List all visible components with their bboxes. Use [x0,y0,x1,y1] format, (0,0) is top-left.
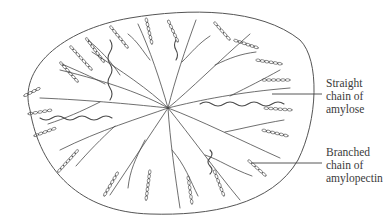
helical-bead-chain [262,79,290,82]
amylopectin-branch [172,150,198,196]
amylopectin-branch [215,52,256,65]
helical-bead-chain [57,149,79,173]
helical-bead-chain [69,45,93,71]
leader-lines [252,94,322,163]
amylopectin-branch [205,155,252,176]
helical-bead-chain [28,109,52,116]
amylopectin-branch [182,36,210,62]
helical-bead-chain [262,129,289,138]
amylopectin-branch [168,108,240,200]
amylopectin-branch [60,108,168,150]
amylopectin-branch [76,126,115,166]
amylopectin-branch [60,70,168,108]
amylopectin-branch [225,120,284,132]
label-line: amylose [326,103,364,116]
label-straight-chain-amylose: Straight chain of amylose [326,77,364,116]
amylopectin-branch [48,102,100,124]
granule-outline [28,12,314,214]
label-line: chain of [326,159,383,172]
label-branched-chain-amylopectin: Branched chain of amylopectin [326,146,383,185]
label-line: Branched [326,146,383,159]
helical-bead-chain [233,39,258,50]
helical-bead-chain [145,170,152,201]
amylopectin-branch [92,52,168,108]
amylopectin-branch [168,34,250,108]
amylose-chain [40,116,112,120]
amylopectin-branch [62,64,105,84]
label-line: amylopectin [326,172,383,185]
amylopectin-branch [230,70,280,96]
helical-bead-chain [145,18,154,45]
amylopectin-branch [168,108,280,158]
helical-bead-chain [213,21,231,41]
helical-bead-chain [23,87,40,97]
amylopectin-branch [128,34,150,60]
amylopectin-branch [168,20,196,108]
amylopectin-branch [168,88,290,108]
amylose-chain [200,102,284,106]
helical-bead-chain [247,159,267,177]
helical-bead-chain [187,176,194,205]
amylose-chain [175,40,178,60]
label-line: Straight [326,77,364,90]
amylose-chain [108,40,112,100]
amylopectin-branch [40,98,168,108]
helical-bead-chain [85,37,105,63]
label-line: chain of [326,90,364,103]
helical-bead-chain [256,59,283,66]
helical-bead-chain [264,107,292,112]
helical-bead-chain [167,19,179,42]
